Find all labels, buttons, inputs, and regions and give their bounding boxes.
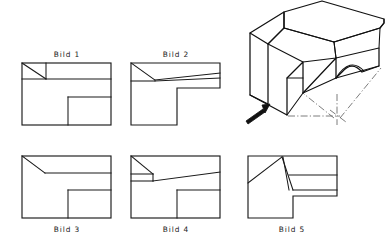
iso-seat-pan <box>268 28 336 62</box>
view-direction-arrow <box>246 104 270 124</box>
bild1-caption: Bild 1 <box>54 50 80 59</box>
bild4-outer-rect <box>131 156 220 218</box>
bild2-caption: Bild 2 <box>163 50 189 59</box>
bild3-chamfer-diagonal <box>22 156 45 173</box>
iso-inner-back-wall <box>334 19 384 42</box>
drawing-sheet: Bild 1 Bild 2 Bild 3 <box>0 0 389 242</box>
iso-front-right-face <box>303 58 336 93</box>
isometric-view-group <box>246 1 384 125</box>
bild4-vee-left-leg <box>131 156 153 174</box>
bild4-caption: Bild 4 <box>163 225 189 234</box>
figure-bild-4 <box>131 156 220 218</box>
arrow-shaft-icon <box>246 109 265 124</box>
figure-bild-5 <box>248 156 337 218</box>
iso-front-face-lower-edge <box>287 66 379 115</box>
bild1-chamfer-diagonal <box>22 63 46 79</box>
iso-backrest-top-rim <box>284 1 384 42</box>
iso-left-outer-wall <box>250 33 268 104</box>
bild3-caption: Bild 3 <box>54 225 80 234</box>
figure-bild-1 <box>22 63 111 125</box>
bild4-slant-to-right <box>153 172 220 181</box>
iso-inner-back-wall-edge <box>334 28 380 58</box>
bild2-vee-left-leg <box>131 63 155 80</box>
iso-front-lower-block <box>250 62 303 115</box>
iso-left-arm-top-face <box>250 12 284 44</box>
drawing-canvas: Bild 1 Bild 2 Bild 3 <box>0 0 389 242</box>
bild5-ridge-vertical <box>283 157 289 190</box>
bild5-gable-left-slope <box>248 157 282 183</box>
figure-bild-2 <box>131 63 220 125</box>
bild5-caption: Bild 5 <box>279 225 305 234</box>
figure-bild-3 <box>22 156 111 218</box>
construction-axis-diagonal-left <box>304 94 334 118</box>
